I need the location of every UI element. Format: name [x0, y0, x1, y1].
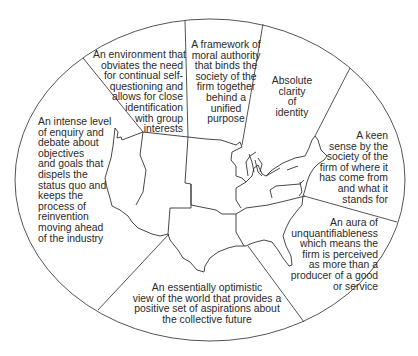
- segment-label-aura: An aura of unquantifiableness which mean…: [282, 218, 378, 292]
- segment-label-optimistic: An essentially optimistic view of the wo…: [132, 283, 282, 325]
- segment-label-clarity: Absolute clarity of identity: [262, 76, 322, 118]
- segment-label-enquiry: An intense level of enquiry and debate a…: [38, 117, 128, 244]
- segment-label-framework: A framework of moral authority that bind…: [186, 40, 266, 125]
- segment-label-sense: A keen sense by the society of the firm …: [318, 131, 388, 205]
- state-lines: [136, 132, 305, 246]
